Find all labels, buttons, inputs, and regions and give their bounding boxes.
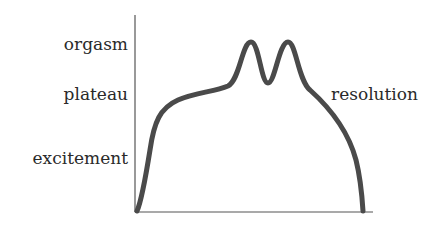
plateau-label: plateau [64, 86, 128, 103]
orgasm-label: orgasm [64, 36, 128, 53]
excitement-label: excitement [33, 150, 128, 167]
response-curve [137, 42, 363, 211]
resolution-label: resolution [331, 86, 418, 103]
